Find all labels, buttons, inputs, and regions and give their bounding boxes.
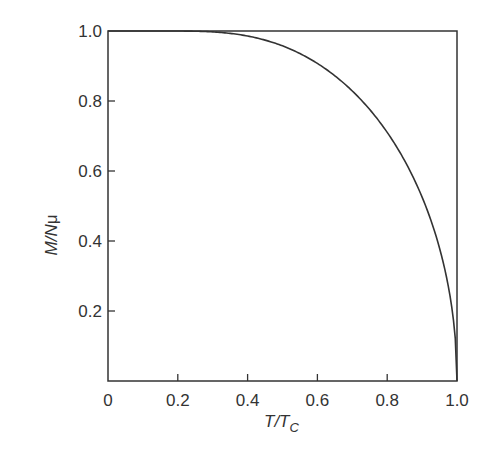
y-ticks: 0.20.40.60.81.0 (78, 22, 115, 321)
plot-frame (108, 31, 457, 381)
y-tick-label: 1.0 (78, 22, 102, 41)
x-tick-label: 0.6 (306, 391, 330, 410)
magnetization-curve (108, 31, 457, 381)
x-tick-label: 0 (103, 391, 112, 410)
x-ticks: 00.20.40.60.81.0 (103, 374, 469, 410)
x-tick-label: 0.8 (375, 391, 399, 410)
chart: 00.20.40.60.81.0 0.20.40.60.81.0 T/TC M/… (0, 0, 498, 460)
y-tick-label: 0.8 (78, 92, 102, 111)
x-tick-label: 1.0 (445, 391, 469, 410)
x-tick-label: 0.4 (236, 391, 260, 410)
x-tick-label: 0.2 (166, 391, 190, 410)
y-tick-label: 0.2 (78, 302, 102, 321)
y-tick-label: 0.4 (78, 232, 102, 251)
y-axis-label: M/Nμ (42, 215, 61, 256)
y-tick-label: 0.6 (78, 162, 102, 181)
x-axis-label: T/TC (264, 412, 300, 435)
